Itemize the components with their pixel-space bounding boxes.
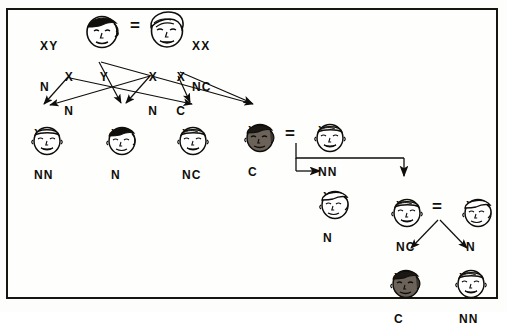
gamete-father-y: Y: [97, 49, 110, 106]
cross-symbol-f2: =: [432, 198, 442, 215]
face-f2-child-1[interactable]: [318, 188, 354, 221]
face-f3-child-1-affected[interactable]: [389, 267, 425, 300]
face-f2-cross-male[interactable]: [461, 196, 497, 229]
gamete-mother-xn: X N: [146, 49, 159, 140]
face-f1-child-4-affected[interactable]: [243, 121, 279, 154]
face-f3-child-2[interactable]: [454, 267, 490, 300]
cross-symbol-f1: =: [285, 125, 295, 142]
cross-symbol-p: =: [130, 17, 140, 34]
face-p-father[interactable]: [82, 11, 124, 51]
face-f1-child-3[interactable]: [176, 124, 212, 157]
face-f1-child-2[interactable]: [105, 124, 141, 157]
face-f1-child-1[interactable]: [30, 124, 66, 157]
face-p-mother[interactable]: [146, 9, 190, 51]
face-f2-child-2[interactable]: [390, 196, 426, 229]
face-f1-cross-female[interactable]: [313, 121, 349, 154]
